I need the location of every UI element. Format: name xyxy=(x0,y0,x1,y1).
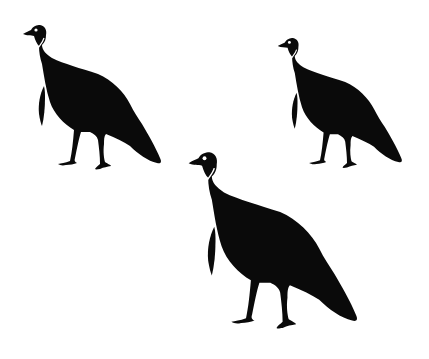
turkey-top-left xyxy=(23,25,161,169)
turkey-bottom-center xyxy=(189,152,357,328)
turkey-scene xyxy=(0,0,429,359)
turkey-top-right xyxy=(278,38,402,168)
